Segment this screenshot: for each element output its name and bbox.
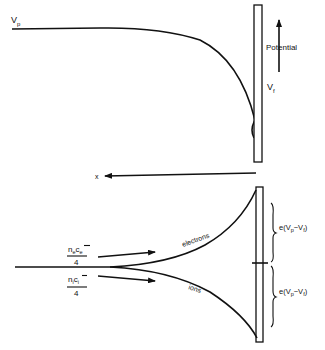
ions-label: ions bbox=[188, 283, 203, 294]
x-axis-label: x bbox=[95, 173, 99, 180]
potential-curve bbox=[12, 28, 255, 138]
ions-curve bbox=[110, 267, 257, 338]
lower-brace bbox=[271, 266, 276, 327]
lower-energy-label: e(Vp−Vf) bbox=[279, 287, 308, 297]
svg-text:nece: nece bbox=[68, 245, 83, 255]
svg-text:4: 4 bbox=[74, 289, 79, 298]
potential-label: Potential bbox=[266, 43, 297, 52]
potential-profile-panel: Vp Potential Vf bbox=[11, 5, 297, 162]
x-axis: x bbox=[95, 173, 256, 180]
x-axis-arrow bbox=[105, 173, 256, 176]
langmuir-probe-diagram: Vp Potential Vf x nece bbox=[0, 0, 325, 350]
upper-energy-label: e(Vp−Vf) bbox=[279, 223, 308, 233]
vp-label: Vp bbox=[11, 15, 21, 27]
electron-flux-arrow-icon bbox=[98, 252, 155, 257]
ion-flux-arrow-icon bbox=[98, 276, 155, 281]
svg-text:nici: nici bbox=[68, 275, 79, 285]
upper-brace bbox=[271, 203, 276, 262]
probe-top bbox=[254, 5, 262, 162]
electrons-label: electrons bbox=[181, 231, 211, 247]
electrons-curve bbox=[110, 190, 256, 267]
ion-flux-fraction: nici 4 bbox=[67, 275, 87, 298]
vf-label: Vf bbox=[267, 82, 275, 94]
svg-text:4: 4 bbox=[74, 258, 79, 267]
probe-bottom bbox=[256, 187, 263, 342]
electron-flux-fraction: nece 4 bbox=[67, 245, 90, 267]
flux-panel: nece 4 nici 4 electrons ions e(Vp−Vf) e(… bbox=[15, 187, 308, 342]
